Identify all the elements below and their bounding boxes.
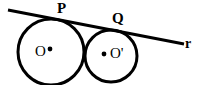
geometry-figure: P Q r O O' xyxy=(0,0,204,85)
label-line-r: r xyxy=(185,37,191,51)
geometry-canvas xyxy=(0,0,204,85)
label-center-o-prime: O' xyxy=(110,46,124,61)
label-tangent-point-p: P xyxy=(57,1,66,16)
label-center-o: O xyxy=(35,44,46,59)
label-tangent-point-q: Q xyxy=(112,11,124,26)
center-dot-right xyxy=(102,52,107,57)
center-dot-left xyxy=(48,47,53,52)
